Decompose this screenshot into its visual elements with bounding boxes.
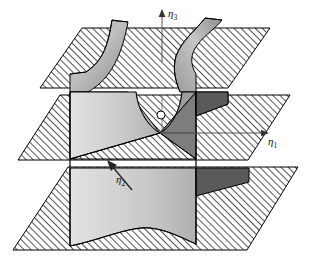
eta1-axis-label: η1: [268, 136, 277, 150]
eta2-axis-label: η2: [116, 174, 125, 188]
origin-marker: [157, 111, 165, 119]
eta3-arrow-icon: [159, 9, 166, 17]
eta1-label-sub: 1: [273, 141, 277, 150]
figure-canvas: η3 η1 η2: [0, 0, 309, 274]
eta3-label-sub: 3: [173, 13, 177, 22]
diagram-svg: [0, 0, 309, 274]
eta3-axis-label: η3: [168, 8, 177, 22]
eta2-label-sub: 2: [121, 179, 125, 188]
